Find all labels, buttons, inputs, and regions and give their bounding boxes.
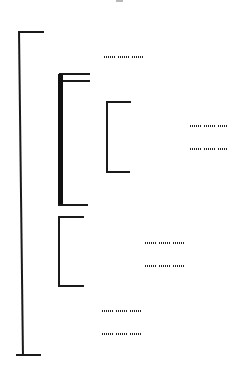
- thick-bracket-top: [59, 73, 90, 75]
- thick-bracket-bottom: [58, 204, 88, 206]
- node-label: [190, 147, 230, 151]
- inner-bracket-spine: [106, 101, 108, 173]
- inner-bracket-top: [106, 101, 131, 103]
- outer-bracket-bottom: [16, 354, 41, 356]
- inner-bracket-bottom: [106, 171, 130, 173]
- lower-bracket-bottom: [58, 285, 84, 287]
- thick-bracket-spine: [58, 74, 63, 206]
- scan-smudge: [116, 0, 123, 2]
- node-label: [102, 309, 144, 313]
- thick-bracket-second: [59, 80, 90, 82]
- node-label: [104, 55, 146, 59]
- node-label: [145, 264, 187, 268]
- outer-bracket-spine: [18, 31, 24, 356]
- node-label: [145, 241, 187, 245]
- lower-bracket-spine: [58, 216, 60, 287]
- lower-bracket-top: [58, 216, 84, 218]
- node-label: [102, 332, 144, 336]
- node-label: [190, 124, 230, 128]
- outer-bracket-top: [19, 31, 44, 33]
